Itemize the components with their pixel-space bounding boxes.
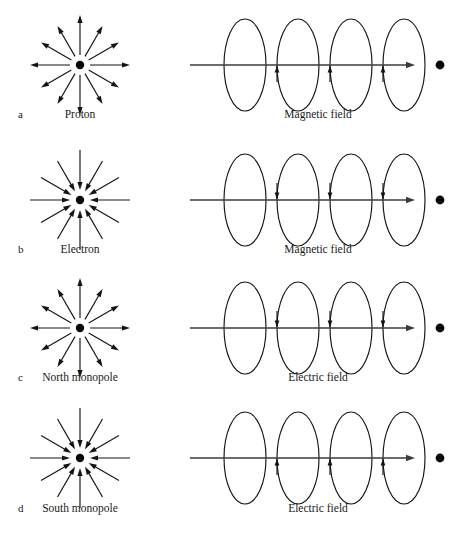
moving-charge-dot	[436, 196, 445, 205]
field-caption-north-monopole: Electric field	[288, 371, 348, 383]
row-label-electron: b	[18, 243, 24, 255]
field-caption-proton: Magnetic field	[284, 108, 352, 121]
field-caption-electron: Magnetic field	[284, 243, 352, 256]
monopole-field-figure: aProtonMagnetic fieldbElectronMagnetic f…	[0, 0, 462, 541]
row-label-south-monopole: d	[18, 502, 24, 514]
particle-caption-electron: Electron	[61, 243, 100, 255]
moving-charge-dot	[436, 324, 445, 333]
row-label-north-monopole: c	[18, 371, 23, 383]
particle-core-dot	[76, 61, 84, 69]
moving-charge-dot	[436, 61, 445, 70]
particle-caption-north-monopole: North monopole	[42, 371, 118, 384]
particle-caption-proton: Proton	[65, 108, 96, 120]
row-label-proton: a	[18, 108, 23, 120]
particle-caption-south-monopole: South monopole	[42, 502, 118, 515]
particle-core-dot	[76, 196, 84, 204]
particle-core-dot	[76, 324, 84, 332]
particle-core-dot	[76, 454, 84, 462]
figure-background	[0, 0, 462, 541]
moving-charge-dot	[436, 454, 445, 463]
field-caption-south-monopole: Electric field	[288, 502, 348, 514]
